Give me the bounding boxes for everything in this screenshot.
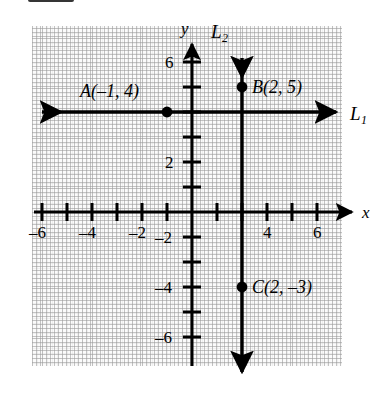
y-tick-label-neg6: –6 [155, 329, 172, 346]
y-tick-label-6: 6 [165, 54, 174, 71]
point-b-label: B(2, 5) [252, 78, 302, 96]
y-tick-label-2: 2 [165, 154, 174, 171]
y-axis [183, 44, 201, 366]
line-l1-label-base: L [350, 103, 361, 124]
plot-canvas [0, 0, 385, 394]
line-l2-label: L2 [211, 22, 228, 41]
coordinate-plane-figure: y x L2 L1 –6 –4 –2 4 6 6 2 –2 –4 –6 A(–1… [0, 0, 385, 394]
y-axis-label: y [181, 20, 189, 37]
line-l2-label-sub: 2 [222, 31, 228, 45]
x-axis-label: x [362, 204, 370, 221]
point-a-dot [162, 107, 173, 118]
x-tick-label-neg2: –2 [129, 224, 146, 241]
line-l1-label-sub: 1 [361, 113, 367, 127]
point-c-label: C(2, –3) [252, 278, 312, 296]
x-tick-label-neg4: –4 [79, 224, 96, 241]
x-tick-label-neg6: –6 [29, 224, 46, 241]
y-tick-label-neg4: –4 [155, 279, 172, 296]
x-tick-label-6: 6 [313, 224, 322, 241]
point-a-label: A(–1, 4) [80, 82, 139, 100]
line-l2-label-base: L [211, 21, 222, 42]
point-c-dot [237, 282, 248, 293]
y-tick-label-neg2: –2 [155, 229, 172, 246]
x-tick-label-4: 4 [263, 224, 272, 241]
point-b-dot [237, 82, 248, 93]
line-l1-label: L1 [350, 104, 367, 123]
